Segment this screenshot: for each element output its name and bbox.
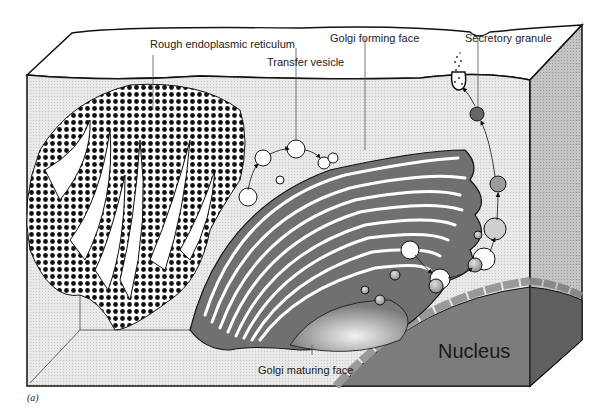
label-secretory-granule: Secretory granule — [465, 32, 552, 44]
cell-diagram: Rough endoplasmic reticulum Transfer ves… — [0, 0, 605, 413]
label-transfer-vesicle: Transfer vesicle — [267, 56, 344, 68]
panel-label: (a) — [27, 392, 39, 403]
label-golgi-forming-face: Golgi forming face — [330, 32, 419, 44]
label-golgi-maturing-face: Golgi maturing face — [258, 364, 353, 376]
label-nucleus: Nucleus — [438, 340, 510, 363]
label-rough-er: Rough endoplasmic reticulum — [150, 38, 295, 50]
